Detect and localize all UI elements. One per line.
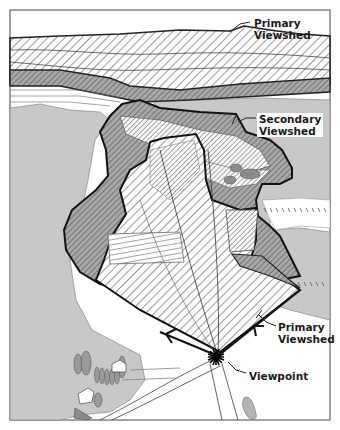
primary-viewshed-bottom-label: Primary Viewshed — [276, 321, 337, 345]
viewshed-diagram — [0, 0, 340, 430]
gray-blob — [240, 169, 260, 179]
gray-blob — [230, 164, 242, 172]
label-line: Viewshed — [278, 333, 335, 345]
label-line: Viewshed — [254, 29, 311, 41]
right-strip — [226, 210, 258, 252]
label-line: Primary — [278, 321, 335, 333]
label-line: Viewshed — [259, 125, 321, 137]
label-line: Secondary — [259, 113, 321, 125]
secondary-viewshed-label: Secondary Viewshed — [257, 113, 323, 137]
label-line: Primary — [254, 17, 311, 29]
viewpoint-label: Viewpoint — [247, 370, 310, 382]
crop-field — [108, 232, 184, 264]
primary-viewshed-top-label: Primary Viewshed — [252, 17, 313, 41]
viewpoint-star-icon — [208, 349, 224, 365]
gray-blob — [224, 176, 236, 184]
